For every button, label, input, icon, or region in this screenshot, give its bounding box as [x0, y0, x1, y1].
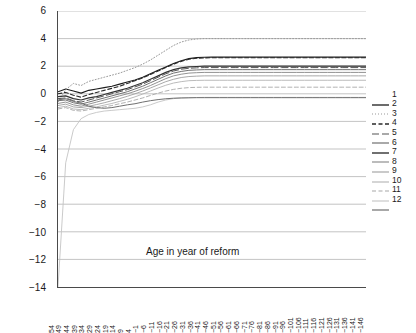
y-tick-label: −10 [29, 228, 46, 238]
x-tick-label: −36 [187, 321, 194, 333]
y-axis-tick-labels: 6420−2−4−6−8−10−12−14 [10, 0, 46, 333]
x-tick-label: 9 [117, 329, 124, 333]
x-tick-label: −1 [132, 325, 139, 333]
x-tick-label: −121 [318, 317, 325, 333]
x-tick-label: 19 [102, 325, 109, 333]
x-tick-label: −16 [156, 321, 163, 333]
x-tick-label: −71 [241, 321, 248, 333]
x-tick-label: −126 [326, 317, 333, 333]
legend-label: 3 [392, 109, 397, 118]
chart-legend: 123456789101112 [372, 89, 416, 204]
series-line-1 [58, 57, 366, 93]
x-tick-label: −66 [233, 321, 240, 333]
y-tick-label: −14 [29, 283, 46, 293]
x-tick-label: 44 [63, 325, 70, 333]
x-tick-label: −11 [148, 322, 155, 333]
x-axis-title: Age in year of reform [146, 246, 239, 257]
chart-container: Percentage of lifetime resources 6420−2−… [0, 0, 416, 333]
x-tick-label: −136 [341, 317, 348, 333]
y-tick-label: −6 [35, 172, 46, 182]
legend-label: 11 [392, 185, 401, 194]
legend-label: 10 [392, 176, 401, 185]
x-tick-label: −96 [279, 321, 286, 333]
legend-label: 5 [392, 128, 397, 137]
x-tick-label: −81 [256, 321, 263, 333]
x-tick-label: 54 [48, 325, 55, 333]
x-tick-label: −131 [333, 317, 340, 333]
x-tick-label: 4 [125, 329, 132, 333]
y-tick-label: −12 [29, 255, 46, 265]
x-tick-label: −76 [248, 321, 255, 333]
y-tick-label: −2 [35, 117, 46, 127]
x-tick-label: −61 [225, 321, 232, 333]
x-tick-label: −111 [302, 318, 309, 333]
y-tick-label: −4 [35, 145, 46, 155]
legend-label: 1 [392, 90, 397, 99]
series-line-11 [58, 97, 366, 287]
x-tick-label: 49 [55, 325, 62, 333]
series-line-2 [58, 39, 366, 102]
y-tick-label: 0 [40, 89, 46, 99]
x-tick-label: −116 [310, 318, 317, 333]
x-tick-label: −56 [217, 321, 224, 333]
x-tick-label: −46 [202, 321, 209, 333]
x-tick-label: −101 [287, 317, 294, 333]
series-line-6 [58, 66, 366, 100]
legend-label: 4 [392, 118, 397, 127]
y-tick-label: −8 [35, 200, 46, 210]
legend-label: 9 [392, 166, 397, 175]
x-tick-label: −141 [349, 317, 356, 333]
x-tick-label: 29 [86, 325, 93, 333]
legend-label: 8 [392, 157, 397, 166]
x-tick-label: −106 [295, 317, 302, 333]
y-tick-label: 6 [40, 6, 46, 16]
legend-label: 7 [392, 147, 397, 156]
y-tick-label: 2 [40, 61, 46, 71]
y-tick-label: 4 [40, 34, 46, 44]
legend-label: 2 [392, 99, 397, 108]
legend-label: 12 [392, 195, 401, 204]
x-tick-label: −86 [264, 321, 271, 333]
x-tick-label: −51 [210, 321, 217, 333]
x-axis-tick-labels: 54494439342924191494−1−6−11−16−21−26−31−… [57, 289, 367, 333]
x-tick-label: 34 [78, 325, 85, 333]
x-tick-label: −91 [272, 321, 279, 333]
x-tick-label: −31 [179, 321, 186, 333]
x-tick-label: −26 [171, 321, 178, 333]
x-tick-label: −41 [194, 321, 201, 333]
x-tick-label: −21 [163, 321, 170, 333]
x-tick-label: 39 [71, 325, 78, 333]
x-tick-label: −6 [140, 325, 147, 333]
x-tick-label: −146 [357, 317, 364, 333]
x-tick-label: 24 [94, 325, 101, 333]
legend-label: 6 [392, 138, 397, 147]
legend-item-1[interactable]: 1 [372, 89, 416, 99]
x-tick-label: 14 [109, 325, 116, 333]
